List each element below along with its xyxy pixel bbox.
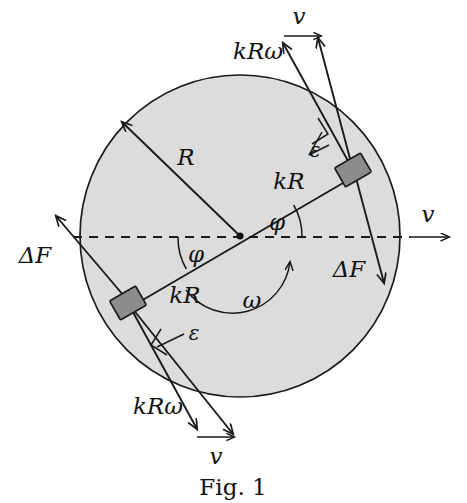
label-kRomega-lower: kRω xyxy=(133,393,183,419)
label-epsilon-upper: ε xyxy=(310,138,321,162)
label-kRomega-upper: kRω xyxy=(233,38,283,64)
label-deltaF-left: ΔF xyxy=(18,242,53,268)
physics-diagram-svg: R kR kR φ φ ω v ε kRω xyxy=(0,0,467,503)
label-phi-left: φ xyxy=(188,241,205,267)
label-deltaF-right: ΔF xyxy=(332,256,367,282)
label-radius-R: R xyxy=(176,144,194,170)
label-v-top: v xyxy=(293,3,306,29)
label-omega: ω xyxy=(243,287,262,313)
figure-container: R kR kR φ φ ω v ε kRω xyxy=(0,0,467,503)
disk-center-point xyxy=(236,232,243,239)
label-kR-lower: kR xyxy=(169,282,200,308)
label-kR-upper: kR xyxy=(273,168,304,194)
figure-caption: Fig. 1 xyxy=(199,474,266,500)
label-epsilon-lower: ε xyxy=(189,321,200,345)
label-v-bottom: v xyxy=(210,443,223,469)
label-v-right: v xyxy=(422,201,435,227)
label-phi-right: φ xyxy=(269,209,286,235)
